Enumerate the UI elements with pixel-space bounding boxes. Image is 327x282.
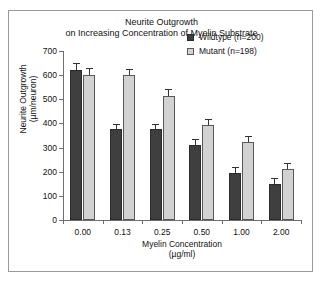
error-bar-wildtype-2.00 — [274, 179, 275, 183]
error-bar-wildtype-0.13 — [116, 125, 117, 130]
bar-wildtype-0.25 — [150, 129, 162, 220]
bar-wildtype-0.13 — [110, 129, 122, 220]
bar-mutant-0.25 — [163, 96, 175, 220]
error-bar-wildtype-0.25 — [155, 125, 156, 130]
y-tick-mark — [59, 75, 63, 76]
error-cap-wildtype-1.00 — [232, 167, 239, 168]
y-tick-label: 300 — [43, 143, 57, 153]
legend-swatch-wildtype-icon — [187, 34, 194, 41]
error-cap-mutant-0.25 — [165, 89, 172, 90]
bar-wildtype-2.00 — [269, 184, 281, 220]
x-tick-mark — [222, 220, 223, 224]
bar-group-0.25 — [150, 51, 175, 220]
bar-group-0.50 — [189, 51, 214, 220]
y-tick-label: 400 — [43, 118, 57, 128]
error-bar-wildtype-0.00 — [76, 64, 77, 71]
bar-group-1.00 — [229, 51, 254, 220]
y-tick-mark — [59, 51, 63, 52]
error-cap-mutant-1.00 — [245, 136, 252, 137]
x-tick-label-0.50: 0.50 — [194, 227, 211, 237]
error-cap-wildtype-0.25 — [152, 124, 159, 125]
x-axis-title: Myelin Concentration (µg/ml) — [63, 239, 301, 259]
bar-mutant-0.00 — [83, 75, 95, 220]
y-tick-label: 0 — [52, 215, 57, 225]
error-cap-wildtype-0.13 — [113, 124, 120, 125]
bar-wildtype-0.00 — [70, 70, 82, 220]
error-bar-wildtype-1.00 — [235, 168, 236, 173]
x-tick-label-2.00: 2.00 — [273, 227, 290, 237]
error-bar-mutant-2.00 — [287, 164, 288, 169]
error-bar-mutant-1.00 — [248, 137, 249, 142]
x-tick-mark — [142, 220, 143, 224]
y-tick-mark — [59, 123, 63, 124]
bar-wildtype-1.00 — [229, 173, 241, 220]
chart-title-line-2: on Increasing Concentration of Myelin Su… — [9, 28, 314, 39]
y-tick-mark — [59, 99, 63, 100]
x-tick-mark — [301, 220, 302, 224]
bar-mutant-1.00 — [242, 142, 254, 220]
y-tick-mark — [59, 172, 63, 173]
y-axis-line — [63, 51, 64, 221]
error-cap-mutant-2.00 — [284, 163, 291, 164]
error-bar-wildtype-0.50 — [195, 140, 196, 145]
error-cap-wildtype-0.00 — [73, 63, 80, 64]
bar-group-2.00 — [269, 51, 294, 220]
error-cap-wildtype-0.50 — [192, 139, 199, 140]
bar-group-0.00 — [70, 51, 95, 220]
x-tick-mark — [261, 220, 262, 224]
bar-mutant-0.13 — [123, 75, 135, 220]
chart-title-line-1: Neurite Outgrowth — [9, 17, 314, 28]
y-axis-title-line-2: (µm/neuron) — [28, 45, 38, 153]
x-axis-title-line-1: Myelin Concentration — [63, 239, 301, 249]
error-bar-mutant-0.13 — [129, 70, 130, 75]
plot-area: 0100200300400500600700 0.000.130.250.501… — [63, 51, 301, 220]
y-tick-mark — [59, 148, 63, 149]
y-tick-label: 700 — [43, 46, 57, 56]
y-axis-title-line-1: Neurite Outgrowth — [18, 45, 28, 153]
x-axis-title-line-2: (µg/ml) — [63, 249, 301, 259]
chart-figure-frame: Neurite Outgrowth on Increasing Concentr… — [8, 10, 313, 272]
x-tick-label-0.25: 0.25 — [154, 227, 171, 237]
y-axis-title: Neurite Outgrowth (µm/neuron) — [17, 89, 39, 109]
chart-title: Neurite Outgrowth on Increasing Concentr… — [9, 17, 314, 39]
y-tick-mark — [59, 196, 63, 197]
x-tick-mark — [63, 220, 64, 224]
y-tick-label: 100 — [43, 191, 57, 201]
x-tick-label-0.00: 0.00 — [75, 227, 92, 237]
x-tick-mark — [182, 220, 183, 224]
x-tick-label-1.00: 1.00 — [233, 227, 250, 237]
bar-mutant-0.50 — [202, 125, 214, 220]
x-tick-label-0.13: 0.13 — [114, 227, 131, 237]
y-tick-label: 200 — [43, 167, 57, 177]
bar-wildtype-0.50 — [189, 145, 201, 220]
error-cap-wildtype-2.00 — [271, 178, 278, 179]
bar-group-0.13 — [110, 51, 135, 220]
error-cap-mutant-0.13 — [126, 69, 133, 70]
y-tick-label: 500 — [43, 94, 57, 104]
y-tick-label: 600 — [43, 70, 57, 80]
error-cap-mutant-0.50 — [205, 119, 212, 120]
error-bar-mutant-0.25 — [168, 90, 169, 95]
x-tick-mark — [103, 220, 104, 224]
bar-mutant-2.00 — [282, 169, 294, 220]
legend-item-wildtype: Wildtype (n=200) — [187, 31, 264, 43]
error-bar-mutant-0.00 — [89, 69, 90, 75]
error-bar-mutant-0.50 — [208, 120, 209, 125]
legend-label-wildtype: Wildtype (n=200) — [199, 31, 264, 43]
error-cap-mutant-0.00 — [86, 68, 93, 69]
